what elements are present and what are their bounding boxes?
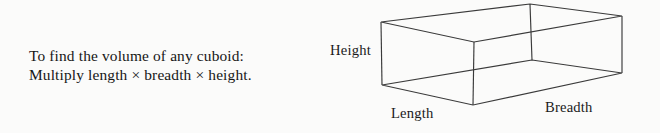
label-length: Length	[391, 105, 434, 121]
cuboid-vertical-edge-left	[381, 22, 382, 85]
cuboid-diagram: Height Length Breadth	[0, 0, 660, 133]
page-root: To find the volume of any cuboid: Multip…	[0, 0, 660, 133]
label-breadth: Breadth	[545, 99, 593, 115]
cuboid-top-face-edges	[381, 4, 622, 42]
cuboid-vertical-edge-front	[473, 42, 474, 105]
label-height: Height	[330, 42, 371, 58]
